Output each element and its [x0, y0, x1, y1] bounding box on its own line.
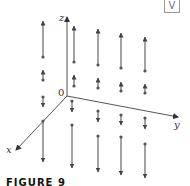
vector-arrow	[70, 123, 73, 168]
vector-arrow	[41, 21, 44, 59]
vector-tail-dot	[119, 135, 122, 138]
vector-arrow	[96, 134, 99, 172]
vector-tail-dot	[143, 91, 146, 94]
vector-arrow	[119, 135, 122, 175]
vectors	[41, 21, 146, 178]
vector-tail-dot	[72, 84, 75, 87]
vector-arrow	[119, 82, 122, 93]
vector-tail-dot	[119, 113, 122, 116]
vector-tail-dot	[96, 109, 99, 112]
vector-arrow	[143, 37, 146, 73]
vector-tail-dot	[119, 89, 122, 92]
vector-arrow	[70, 99, 73, 112]
vector-tail-dot	[70, 123, 73, 126]
axes	[16, 17, 178, 150]
corner-badge: V	[164, 0, 180, 13]
vector-arrow	[119, 33, 122, 70]
vector-tail-dot	[143, 69, 146, 72]
vector-tail-dot	[119, 66, 122, 69]
vector-arrow	[72, 75, 75, 88]
vector-arrow	[143, 84, 146, 95]
vector-tail-dot	[41, 95, 44, 98]
vector-tail-dot	[72, 60, 75, 63]
vector-arrow	[96, 109, 99, 122]
vector-arrow	[119, 113, 122, 125]
vector-tail-dot	[96, 86, 99, 89]
figure-caption: FIGURE 9	[6, 177, 66, 186]
vector-tail-dot	[41, 55, 44, 58]
origin-label: 0	[58, 88, 64, 98]
x-axis-label: x	[6, 145, 12, 155]
vector-tail-dot	[41, 119, 44, 122]
vector-arrow	[41, 119, 44, 162]
vector-tail-dot	[70, 99, 73, 102]
vector-tail-dot	[96, 134, 99, 137]
vector-arrow	[41, 70, 44, 82]
y-axis-label: y	[174, 120, 180, 130]
vector-arrow	[96, 78, 99, 90]
vector-tail-dot	[96, 63, 99, 66]
vector-field-plot	[0, 0, 190, 186]
vector-field-figure: z x y 0 V FIGURE 9	[0, 0, 190, 186]
vector-arrow	[143, 142, 146, 178]
x-axis	[16, 96, 67, 150]
vector-arrow	[72, 26, 75, 64]
vector-tail-dot	[41, 78, 44, 81]
z-axis-label: z	[59, 13, 64, 23]
y-axis	[67, 96, 178, 117]
vector-arrow	[41, 95, 44, 107]
vector-arrow	[96, 29, 99, 67]
vector-tail-dot	[143, 116, 146, 119]
vector-arrow	[143, 116, 146, 129]
vector-tail-dot	[143, 142, 146, 145]
